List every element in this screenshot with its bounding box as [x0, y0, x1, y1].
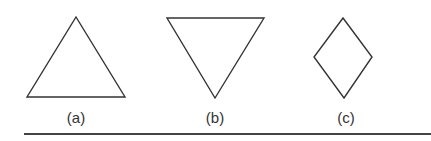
- label-a: (a): [67, 110, 85, 125]
- diamond-shape: [314, 18, 372, 98]
- horizontal-divider: [24, 133, 431, 135]
- label-b: (b): [206, 110, 224, 125]
- upward-triangle-shape: [27, 17, 125, 97]
- label-c: (c): [337, 110, 355, 125]
- downward-triangle-shape: [167, 18, 264, 98]
